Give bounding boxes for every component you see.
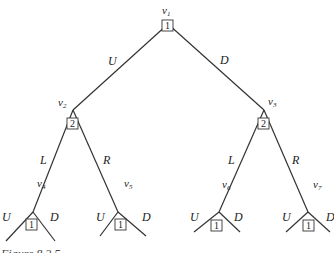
node-label-v1: v1 [162, 4, 170, 18]
node-label-v6: v6 [222, 178, 231, 192]
edge-v3-v6 [219, 110, 264, 212]
node-label-v4: v4 [37, 177, 46, 191]
game-tree-diagram: 1 2 2 1 1 1 1 v1 v2 v3 v4 v5 v6 v7 U D L… [0, 0, 334, 253]
player-label-v7: 1 [306, 220, 311, 231]
player-label-v3: 2 [261, 118, 266, 129]
node-label-v2: v2 [58, 96, 67, 110]
edge-label-v1-v3: D [219, 53, 229, 67]
player-label-v1: 1 [165, 20, 170, 31]
edge-label-v3-v7: R [291, 153, 300, 167]
edge-label-v1-v2: U [108, 54, 118, 68]
player-label-v4: 1 [29, 219, 34, 230]
edge-label-v2-v5: R [102, 153, 111, 167]
edge-label-v4-u: U [2, 210, 12, 224]
node-label-v7: v7 [313, 178, 322, 192]
edge-v2-v5 [73, 110, 118, 212]
edge-label-v7-u: U [282, 210, 292, 224]
edge-label-v6-u: U [190, 210, 200, 224]
player-label-v5: 1 [118, 219, 123, 230]
edge-label-v5-d: D [141, 210, 151, 224]
player-label-v6: 1 [214, 220, 219, 231]
edge-label-v7-d: D [325, 210, 334, 224]
edge-label-v4-d: D [49, 210, 59, 224]
tree-edges [6, 24, 330, 241]
edge-label-v2-v4: L [39, 153, 47, 167]
edge-label-v5-u: U [96, 210, 106, 224]
edge-label-v3-v6: L [227, 153, 235, 167]
player-label-v2: 2 [70, 118, 75, 129]
node-label-v5: v5 [124, 177, 133, 191]
edge-label-v6-d: D [233, 210, 243, 224]
edge-v1-v3 [168, 24, 264, 110]
edge-v1-v2 [73, 24, 168, 110]
edge-v3-v7 [264, 110, 308, 212]
node-label-v3: v3 [268, 95, 277, 109]
figure-caption: Figure 8.2.5 [0, 247, 60, 253]
